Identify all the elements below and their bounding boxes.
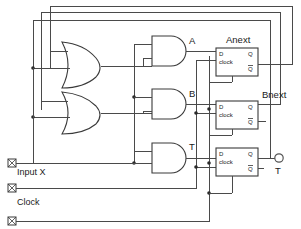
and-gate-b[interactable] [134,89,216,119]
circuit-diagram: A B T [0,0,301,229]
junction-dot [194,165,198,169]
input-pin-x[interactable] [8,159,134,167]
junction-dot [207,107,211,111]
junction-dot [194,111,198,115]
flipflop-d-label: D [219,51,224,57]
output-terminal-t[interactable]: T [258,154,283,176]
clock-bus [22,60,216,188]
or1-to-and-a [101,58,152,66]
flipflop-q-label: Q [248,151,253,157]
net-label-a: A [189,35,196,46]
flipflop-qbar-label: Q [248,119,253,125]
input-pin-clock[interactable] [8,184,196,192]
flipflop-anext-title: Anext [226,34,251,45]
flipflop-d-label: D [219,151,224,157]
output-label-t: T [275,165,281,176]
input-pin-bottom[interactable] [8,217,209,225]
flipflop-q-label: Q [248,104,253,110]
flipflop-clock-label: clock [219,159,234,165]
flipflop-anext[interactable]: D clock Q Q [216,48,266,82]
flipflop-qbar-label: Q [248,66,253,72]
flipflop-t[interactable]: D clock Q Q [209,148,272,193]
net-label-b: B [189,88,195,99]
flipflop-q-label: Q [248,51,253,57]
clock-label: Clock [17,197,40,207]
input-x-label: Input X [17,167,46,177]
output-terminal-icon [275,154,283,162]
net-label-t: T [189,141,195,152]
junction-dot [207,161,211,165]
flipflop-d-label: D [219,104,224,110]
flipflop-clock-label: clock [219,59,234,65]
bottom-input-bus [22,56,209,221]
flipflop-clock-label: clock [219,112,234,118]
and-gate-t[interactable] [134,143,216,173]
flipflop-bnext[interactable]: D clock Q Q [216,101,266,135]
flipflop-qbar-label: Q [248,166,253,172]
flipflop-bnext-title: Bnext [262,89,287,100]
